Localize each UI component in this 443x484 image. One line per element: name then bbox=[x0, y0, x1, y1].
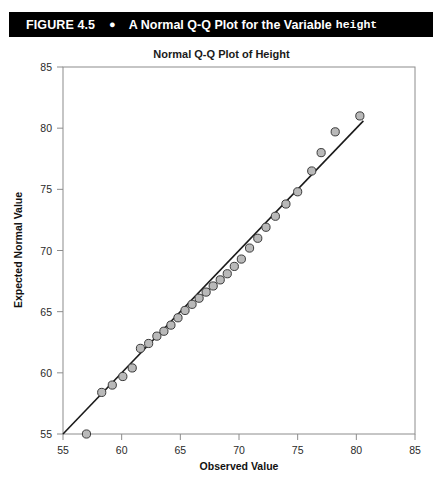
data-point bbox=[195, 294, 203, 302]
data-point bbox=[174, 314, 182, 322]
data-point bbox=[223, 270, 231, 278]
y-tick-label: 55 bbox=[40, 428, 52, 440]
figure-title: A Normal Q-Q Plot for the Variable bbox=[129, 18, 332, 32]
x-tick-label: 55 bbox=[57, 444, 69, 456]
data-point bbox=[356, 112, 364, 120]
x-axis-label: Observed Value bbox=[200, 460, 279, 472]
data-point bbox=[82, 430, 90, 438]
qq-plot: 55606570758085 55606570758085 Observed V… bbox=[0, 40, 443, 484]
data-point bbox=[167, 321, 175, 329]
x-tick-label: 70 bbox=[233, 444, 245, 456]
x-tick-label: 65 bbox=[174, 444, 186, 456]
data-point bbox=[282, 200, 290, 208]
y-tick-label: 65 bbox=[40, 306, 52, 318]
data-point bbox=[262, 223, 270, 231]
data-point bbox=[271, 212, 279, 220]
data-point bbox=[136, 344, 144, 352]
x-tick-label: 85 bbox=[409, 444, 421, 456]
data-point bbox=[294, 188, 302, 196]
x-tick-label: 75 bbox=[292, 444, 304, 456]
data-point bbox=[245, 244, 253, 252]
data-point bbox=[98, 388, 106, 396]
x-axis-ticks: 55606570758085 bbox=[57, 434, 421, 456]
data-point bbox=[216, 276, 224, 284]
y-tick-label: 70 bbox=[40, 245, 52, 257]
data-point bbox=[128, 364, 136, 372]
data-point bbox=[119, 372, 127, 380]
x-tick-label: 80 bbox=[350, 444, 362, 456]
y-axis-ticks: 55606570758085 bbox=[40, 61, 63, 440]
reference-line-segment bbox=[63, 121, 363, 434]
y-axis-label: Expected Normal Value bbox=[12, 192, 24, 308]
data-point bbox=[254, 234, 262, 242]
y-tick-label: 85 bbox=[40, 61, 52, 73]
figure-number: FIGURE 4.5 bbox=[26, 18, 95, 32]
data-point bbox=[108, 381, 116, 389]
y-tick-label: 75 bbox=[40, 183, 52, 195]
data-point bbox=[331, 128, 339, 136]
chart-region: Normal Q-Q Plot of Height 55606570758085… bbox=[0, 40, 443, 484]
y-tick-label: 60 bbox=[40, 367, 52, 379]
data-point bbox=[160, 327, 168, 335]
figure-caption-bar: FIGURE 4.5 ● A Normal Q-Q Plot for the V… bbox=[9, 12, 433, 37]
data-point bbox=[202, 288, 210, 296]
reference-line bbox=[63, 121, 363, 434]
figure-title-variable: height bbox=[336, 18, 377, 31]
bullet-icon: ● bbox=[109, 19, 116, 30]
y-tick-label: 80 bbox=[40, 122, 52, 134]
data-points bbox=[82, 112, 364, 438]
data-point bbox=[188, 300, 196, 308]
data-point bbox=[145, 339, 153, 347]
data-point bbox=[153, 332, 161, 340]
data-point bbox=[230, 262, 238, 270]
data-point bbox=[209, 282, 217, 290]
data-point bbox=[181, 306, 189, 314]
data-point bbox=[308, 167, 316, 175]
x-tick-label: 60 bbox=[116, 444, 128, 456]
data-point bbox=[317, 149, 325, 157]
data-point bbox=[237, 255, 245, 263]
